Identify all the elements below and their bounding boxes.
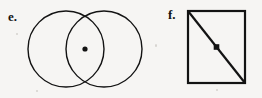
scan-speck (155, 44, 157, 47)
scan-speck (16, 33, 18, 35)
worksheet-canvas: e. f. (0, 0, 262, 98)
figure-e-block: e. (0, 0, 150, 98)
scan-speck (36, 90, 38, 92)
diagonal-center-dot (214, 44, 220, 50)
figure-f-drawing (150, 0, 262, 98)
figure-f-block: f. (150, 0, 262, 98)
intersection-center-dot (82, 46, 87, 51)
scan-speck (216, 89, 218, 91)
